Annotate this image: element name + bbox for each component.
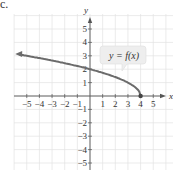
axes: xy	[14, 5, 173, 170]
x-tick-label: 5	[151, 99, 156, 109]
y-tick-label: 4	[83, 37, 88, 47]
endpoint-dot	[138, 94, 142, 98]
y-tick-label: −3	[77, 131, 87, 141]
x-tick-label: −2	[60, 99, 70, 109]
y-tick-label: 1	[83, 78, 88, 88]
y-tick-label: −4	[77, 145, 87, 155]
x-tick-label: 3	[126, 99, 131, 109]
x-tick-label: −4	[35, 99, 45, 109]
function-graph: xy −5−4−3−2−11234554321−1−2−3−4−5 y = f(…	[0, 0, 173, 170]
x-tick-label: −3	[47, 99, 57, 109]
x-axis-arrow-icon	[160, 94, 166, 98]
x-tick-label: 1	[100, 99, 105, 109]
y-tick-label: 3	[83, 51, 88, 61]
grid-lines	[14, 14, 173, 170]
x-tick-label: −5	[22, 99, 32, 109]
y-axis-arrow-icon	[88, 17, 92, 23]
y-tick-label: −2	[77, 118, 87, 128]
function-label: y = f(x)	[108, 50, 140, 62]
function-label-callout: y = f(x)	[100, 46, 146, 71]
y-tick-label: −1	[77, 104, 87, 114]
x-tick-label: 2	[113, 99, 118, 109]
x-axis-label: x	[168, 91, 173, 101]
curve-arrow-left-icon	[15, 51, 22, 57]
y-tick-label: 5	[83, 24, 88, 34]
y-tick-label: −5	[77, 158, 87, 168]
x-tick-label: 4	[138, 99, 143, 109]
y-axis-label: y	[83, 5, 88, 15]
